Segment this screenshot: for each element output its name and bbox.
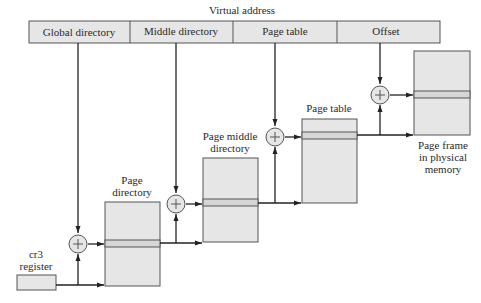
page-directory-label-1: Page [121, 174, 143, 186]
page-directory-label-2: directory [112, 186, 152, 198]
adder-2 [167, 195, 185, 213]
adder-4 [371, 86, 389, 104]
page-directory-table: Page directory [105, 174, 160, 286]
page-frame-label-1: Page frame [418, 139, 468, 151]
pmd-label-1: Page middle [203, 130, 258, 142]
page-middle-directory-table: Page middle directory [203, 130, 258, 242]
field-page-table: Page table [262, 25, 308, 37]
adder-3 [266, 128, 284, 146]
cr3-register: cr3 register [17, 248, 56, 290]
pmd-label-2: directory [210, 142, 250, 154]
virtual-address-title: Virtual address [209, 4, 275, 16]
page-table: Page table [302, 102, 357, 203]
cr3-label: cr3 [29, 248, 44, 260]
register-label: register [20, 260, 53, 272]
virtual-address-bar: Global directory Middle directory Page t… [29, 21, 440, 43]
page-frame-label-2: in physical [419, 151, 467, 163]
field-global-directory: Global directory [43, 26, 116, 38]
adder-1 [69, 235, 87, 253]
page-table-label: Page table [306, 102, 352, 114]
paging-diagram: Virtual address Global directory Middle … [0, 0, 481, 303]
field-offset: Offset [372, 25, 399, 37]
field-middle-directory: Middle directory [144, 25, 219, 37]
page-frame: Page frame in physical memory [414, 51, 470, 175]
page-frame-label-3: memory [425, 163, 462, 175]
